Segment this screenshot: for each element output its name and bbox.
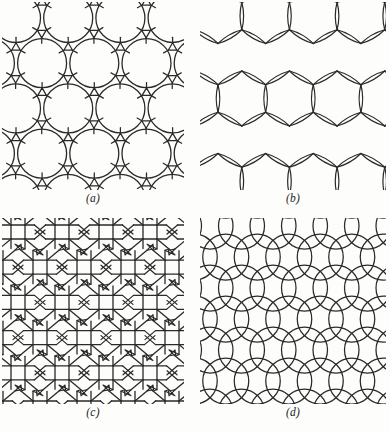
net-polygon	[38, 178, 47, 186]
panel-d-caption: (d)	[200, 406, 386, 418]
net-edge	[111, 73, 116, 76]
net-arc	[361, 85, 363, 113]
net-arc	[242, 167, 244, 190]
net-edge	[65, 391, 77, 401]
net-polygon	[77, 331, 91, 345]
net-circle	[219, 265, 265, 311]
net-arc	[289, 30, 313, 44]
net-edge	[69, 380, 81, 390]
net-polygon	[64, 133, 73, 141]
net-polygon	[11, 166, 20, 174]
net-arc	[313, 30, 337, 44]
net-circle	[174, 129, 184, 178]
net-circle	[2, 84, 41, 133]
net-polygon	[116, 166, 125, 174]
net-edge	[3, 250, 15, 260]
net-circle	[200, 327, 202, 373]
net-circle	[219, 327, 265, 373]
net-polygon	[12, 43, 21, 51]
net-circle	[234, 296, 280, 342]
net-polygon	[121, 331, 135, 345]
net-polygon	[165, 331, 179, 345]
net-edge	[153, 321, 165, 331]
net-edge	[47, 345, 59, 355]
net-edge	[131, 239, 143, 249]
net-circle	[148, 2, 184, 43]
net-circle	[18, 129, 67, 178]
net-arc	[313, 154, 337, 168]
net-arc	[313, 112, 337, 126]
net-arc	[361, 71, 385, 85]
net-edge	[135, 391, 147, 401]
net-edge	[91, 274, 103, 284]
net-circle	[329, 296, 375, 342]
net-polygon	[12, 133, 21, 141]
net-edge	[135, 321, 147, 331]
net-edge	[69, 356, 81, 366]
net-arc	[385, 154, 386, 168]
net-arc	[266, 112, 290, 126]
net-arc	[385, 71, 386, 85]
net-arc	[289, 167, 291, 190]
net-edge	[175, 380, 184, 390]
net-polygon	[38, 88, 47, 96]
net-arc	[242, 30, 266, 44]
net-arc	[216, 85, 218, 113]
net-arc	[385, 30, 386, 44]
net-polygon	[2, 260, 3, 274]
net-arc	[337, 112, 361, 126]
net-edge	[175, 356, 184, 366]
net-arc	[266, 30, 290, 44]
net-polygon	[90, 30, 99, 37]
net-polygon	[55, 225, 69, 239]
net-polygon	[63, 166, 72, 174]
net-arc	[266, 112, 290, 126]
net-arc	[385, 154, 386, 168]
net-arc	[240, 167, 242, 190]
net-arc	[218, 112, 242, 126]
net-arc	[242, 154, 266, 168]
net-arc	[361, 112, 385, 126]
net-polygon	[37, 30, 46, 37]
net-edge	[47, 391, 59, 401]
net-circle	[70, 39, 119, 88]
net-arc	[337, 71, 361, 85]
net-arc	[313, 112, 337, 126]
net-polygon	[116, 76, 125, 84]
net-polygon	[142, 88, 151, 96]
net-edge	[131, 380, 143, 390]
net-arc	[337, 71, 361, 85]
net-circle	[200, 265, 233, 311]
net-edge	[153, 391, 165, 401]
net-edge	[2, 309, 11, 319]
net-arc	[313, 71, 337, 85]
net-arc	[218, 85, 220, 113]
net-polygon	[90, 88, 99, 96]
net-edge	[157, 285, 169, 295]
net-polygon	[142, 2, 151, 5]
net-edge	[131, 285, 143, 295]
net-edge	[113, 380, 125, 390]
net-edge	[157, 309, 169, 319]
net-polygon	[168, 133, 177, 141]
net-edge	[65, 345, 77, 355]
net-arc	[337, 2, 339, 30]
net-arc	[266, 154, 290, 168]
net-edge	[47, 274, 59, 284]
net-circle	[2, 129, 14, 178]
net-arc	[335, 2, 337, 30]
net-polygon	[121, 260, 135, 274]
net-polygon	[55, 366, 69, 380]
net-polygon	[116, 43, 125, 51]
net-polygon	[38, 2, 47, 5]
net-edge	[2, 380, 11, 390]
net-arc	[383, 2, 385, 30]
net-edge	[3, 345, 15, 355]
net-arc	[289, 154, 313, 168]
net-arc	[266, 154, 290, 168]
net-circle	[203, 358, 249, 404]
net-circle	[345, 389, 387, 404]
net-polygon	[142, 121, 151, 129]
net-edge	[135, 345, 147, 355]
panel-b	[200, 2, 386, 190]
